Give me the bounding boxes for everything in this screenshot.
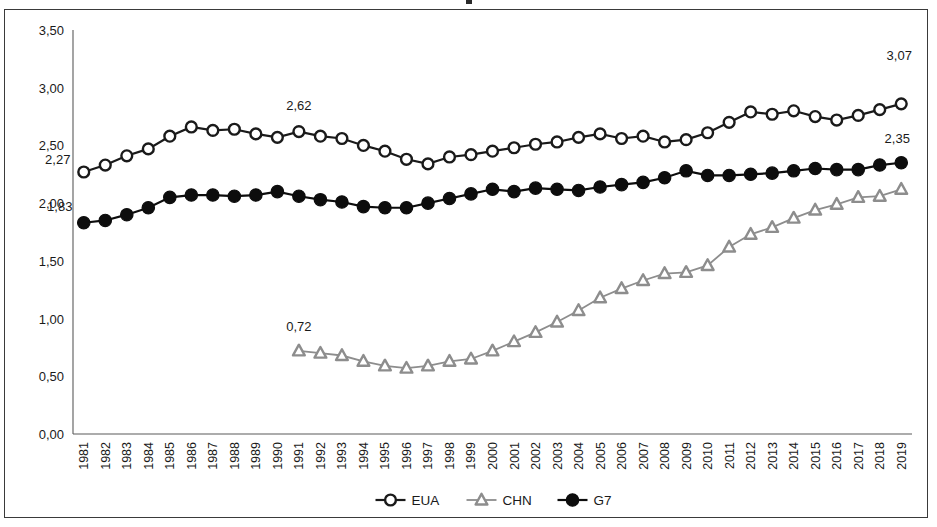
- y-axis-tick-label: 1,00: [39, 312, 64, 327]
- data-point-marker: [250, 128, 261, 139]
- data-point-marker: [164, 131, 175, 142]
- data-point-marker: [486, 183, 498, 195]
- x-axis-tick-label: 1990: [271, 442, 285, 470]
- data-point-marker: [680, 165, 692, 177]
- data-point-marker: [745, 228, 757, 239]
- data-point-marker: [380, 146, 391, 157]
- data-point-marker: [465, 353, 477, 364]
- chart-screenshot: 0,000,501,001,502,002,503,003,50 1981198…: [0, 0, 937, 527]
- x-axis-tick-label: 2002: [529, 442, 543, 470]
- x-axis-tick-label: 2007: [637, 442, 651, 470]
- data-point-marker: [530, 139, 541, 150]
- data-point-marker: [357, 200, 369, 212]
- x-axis-tick-label: 1989: [249, 442, 263, 470]
- legend-label-chn: CHN: [503, 493, 532, 508]
- data-point-marker: [401, 154, 412, 165]
- x-axis-tick-label: 1992: [314, 442, 328, 470]
- x-axis-tick-label: 2013: [766, 442, 780, 470]
- data-point-marker: [552, 137, 563, 148]
- y-axis-tick-labels: 0,000,501,001,502,002,503,003,50: [39, 23, 64, 442]
- data-point-marker: [100, 160, 111, 171]
- x-axis-tick-label: 2011: [723, 442, 737, 469]
- legend-item-eua[interactable]: EUA: [376, 493, 440, 508]
- data-point-marker: [271, 185, 283, 197]
- x-axis-tick-label: 2010: [701, 442, 715, 470]
- data-point-marker: [680, 266, 692, 277]
- data-point-marker: [143, 143, 154, 154]
- data-point-marker: [379, 360, 391, 371]
- data-point-marker: [573, 132, 584, 143]
- data-point-marker: [874, 104, 885, 115]
- x-axis-tick-label: 1995: [378, 442, 392, 470]
- data-point-value-label: 0,72: [286, 319, 311, 334]
- chart-legend: EUACHNG7: [376, 493, 612, 508]
- data-point-marker: [444, 355, 456, 366]
- data-point-marker: [766, 167, 778, 179]
- legend-item-chn[interactable]: CHN: [467, 493, 532, 508]
- data-point-marker: [788, 105, 799, 116]
- data-point-marker: [787, 165, 799, 177]
- legend-label-eua: EUA: [412, 493, 440, 508]
- data-point-marker: [293, 190, 305, 202]
- data-point-marker: [207, 189, 219, 201]
- data-point-marker: [530, 326, 542, 337]
- series-line-chn: [299, 189, 901, 368]
- x-axis-tick-label: 2019: [895, 442, 909, 470]
- x-axis-tick-label: 1988: [228, 442, 242, 470]
- data-point-marker: [99, 214, 111, 226]
- y-axis-tick-label: 3,50: [39, 23, 64, 38]
- x-axis-tick-label: 2000: [486, 442, 500, 470]
- data-point-marker: [186, 122, 197, 133]
- x-axis-tick-label: 1994: [357, 442, 371, 470]
- data-point-marker: [831, 115, 842, 126]
- data-point-marker: [594, 181, 606, 193]
- data-point-marker: [723, 241, 735, 252]
- data-point-marker: [508, 335, 520, 346]
- data-point-marker: [895, 183, 907, 194]
- x-axis-tick-label: 2005: [594, 442, 608, 470]
- data-point-marker: [572, 184, 584, 196]
- data-point-value-label: 3,07: [887, 48, 912, 63]
- x-axis-tick-label: 1997: [421, 442, 435, 470]
- data-point-value-label: 2,27: [45, 152, 70, 167]
- data-point-marker: [637, 176, 649, 188]
- data-point-marker: [529, 182, 541, 194]
- data-point-marker: [443, 192, 455, 204]
- data-point-marker: [422, 197, 434, 209]
- x-axis-tick-label: 2012: [744, 442, 758, 470]
- x-axis-tick-label: 2001: [508, 442, 522, 470]
- x-axis-tick-label: 1981: [77, 442, 91, 470]
- x-axis-tick-label: 2015: [809, 442, 823, 470]
- data-point-marker: [314, 193, 326, 205]
- data-point-marker: [724, 117, 735, 128]
- data-point-marker: [658, 172, 670, 184]
- data-point-marker: [385, 495, 396, 506]
- chart-plot-area: 0,000,501,001,502,002,503,003,50 1981198…: [0, 0, 937, 527]
- data-point-marker: [487, 146, 498, 157]
- series-eua: [78, 98, 906, 177]
- y-axis-tick-label: 3,00: [39, 81, 64, 96]
- data-point-marker: [476, 494, 488, 505]
- data-point-marker: [78, 167, 89, 178]
- data-point-marker: [831, 163, 843, 175]
- x-axis-tick-label: 1999: [464, 442, 478, 470]
- legend-label-g7: G7: [594, 493, 612, 508]
- x-axis-tick-label: 2006: [615, 442, 629, 470]
- data-point-marker: [831, 198, 843, 209]
- data-point-marker: [594, 292, 606, 303]
- data-point-marker: [616, 133, 627, 144]
- data-point-marker: [336, 349, 348, 360]
- x-axis-tick-label: 2003: [551, 442, 565, 470]
- x-axis-tick-label: 2017: [852, 442, 866, 470]
- data-point-marker: [573, 304, 585, 315]
- data-point-marker: [293, 126, 304, 137]
- data-point-marker: [142, 202, 154, 214]
- data-point-marker: [723, 169, 735, 181]
- x-axis-tick-label: 1998: [443, 442, 457, 470]
- legend-item-g7[interactable]: G7: [558, 493, 612, 508]
- data-point-marker: [701, 169, 713, 181]
- data-point-marker: [358, 140, 369, 151]
- data-point-marker: [681, 134, 692, 145]
- data-point-marker: [121, 208, 133, 220]
- y-axis-tick-label: 0,00: [39, 427, 64, 442]
